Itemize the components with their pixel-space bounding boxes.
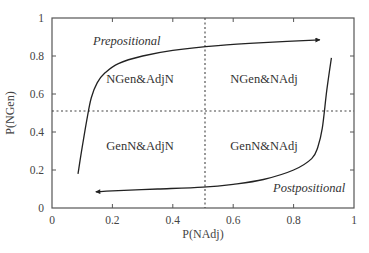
chart: 00.20.40.60.81 00.20.40.60.81 P(NAdj) P(…: [0, 0, 369, 253]
x-axis-tick-labels: 00.20.40.60.81: [49, 214, 357, 226]
prepositional-label: Prepositional: [92, 34, 161, 48]
quadrant-label-ngen-nadj: NGen&NAdj: [230, 72, 297, 86]
x-tick-label: 0.8: [286, 214, 301, 226]
prepositional-curve: [78, 40, 320, 174]
x-tick-label: 0.2: [105, 214, 120, 226]
x-tick-label: 0.6: [226, 214, 241, 226]
x-axis-title: P(NAdj): [182, 227, 223, 241]
postpositional-label: Postpositional: [272, 181, 346, 195]
y-tick-label: 0.6: [30, 88, 45, 100]
quadrant-label-genn-nadj: GenN&NAdj: [230, 139, 297, 153]
y-axis-tick-labels: 00.20.40.60.81: [30, 12, 45, 214]
y-tick-label: 0: [38, 202, 44, 214]
x-tick-label: 1: [351, 214, 357, 226]
y-axis-title: P(NGen): [3, 91, 17, 134]
y-tick-label: 0.2: [30, 164, 45, 176]
y-tick-label: 0.8: [30, 50, 45, 62]
y-tick-label: 0.4: [30, 126, 45, 138]
quadrant-label-genn-adjn: GenN&AdjN: [106, 139, 173, 153]
quadrant-label-ngen-adjn: NGen&AdjN: [106, 72, 173, 86]
y-tick-label: 1: [38, 12, 44, 24]
x-tick-label: 0.4: [166, 214, 181, 226]
x-tick-label: 0: [49, 214, 55, 226]
